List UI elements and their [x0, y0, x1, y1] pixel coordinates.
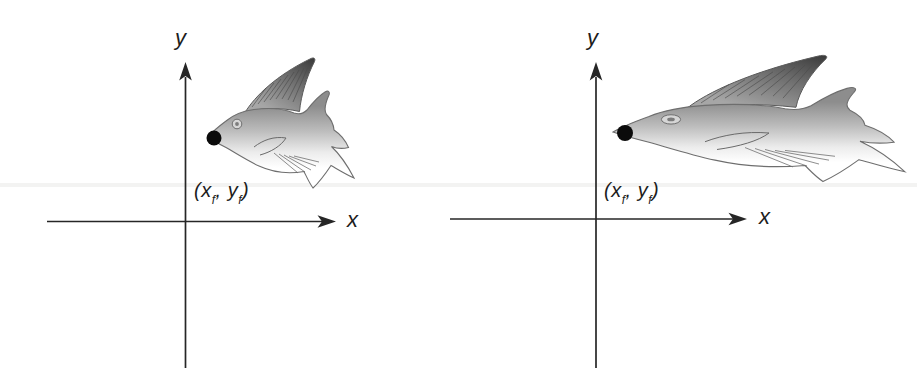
left-fixed-point-label: (xf, yf) [194, 180, 249, 200]
diagram-canvas [0, 0, 917, 385]
fp-mid: , y [626, 179, 649, 201]
fish-scaled-illustration [613, 55, 905, 181]
left-y-axis-label: y [175, 27, 186, 49]
right-x-axis-label: x [759, 206, 770, 228]
fp-post: ) [242, 179, 249, 201]
fp-subscript-f: f [238, 193, 242, 207]
left-panel [47, 58, 354, 368]
fp-subscript-f: f [648, 193, 652, 207]
right-panel [450, 55, 905, 368]
scaling-fixed-point-figure: y x y x (xf, yf) (xf, yf) [0, 0, 917, 385]
right-fixed-point-dot [617, 125, 633, 141]
fish-original-illustration [208, 58, 354, 188]
fp-post: ) [652, 179, 659, 201]
right-fixed-point-label: (xf, yf) [604, 180, 659, 200]
fp-subscript-f: f [622, 193, 626, 207]
left-fixed-point-dot [207, 131, 222, 146]
fp-subscript-f: f [212, 193, 216, 207]
right-y-axis-label: y [587, 27, 598, 49]
left-x-axis-label: x [347, 209, 358, 231]
fp-pre: (x [604, 179, 622, 201]
fp-mid: , y [216, 179, 239, 201]
fp-pre: (x [194, 179, 212, 201]
